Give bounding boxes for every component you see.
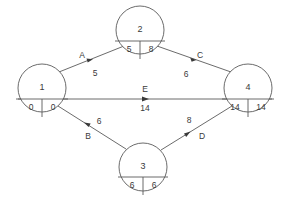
edge-b-duration: 6 <box>97 116 102 126</box>
edge-a[interactable]: A 5 <box>59 46 124 78</box>
edge-e-duration: 14 <box>140 103 150 113</box>
node-3-right-value: 6 <box>152 180 157 190</box>
edge-a-duration: 5 <box>93 68 98 78</box>
node-2[interactable]: 2 5 8 <box>115 6 165 59</box>
node-4-left-value: 14 <box>230 102 240 112</box>
node-1-id: 1 <box>39 82 44 92</box>
edge-e-arrowhead <box>142 97 149 102</box>
node-2-left-value: 5 <box>127 44 132 54</box>
edge-d[interactable]: D 8 <box>161 106 232 150</box>
node-3[interactable]: 3 6 6 <box>118 143 168 195</box>
node-3-id: 3 <box>140 161 145 171</box>
network-diagram-canvas: A 5 C 6 E 14 B 6 <box>0 0 283 199</box>
node-4-id: 4 <box>245 82 250 92</box>
node-group: 1 0 0 2 5 8 3 6 6 <box>16 6 274 195</box>
node-1-left-value: 0 <box>29 102 34 112</box>
node-4-right-value: 14 <box>256 102 266 112</box>
edge-b[interactable]: B 6 <box>58 106 126 149</box>
edge-c-label: C <box>197 50 203 60</box>
edge-c-duration: 6 <box>184 69 189 79</box>
node-3-left-value: 6 <box>130 180 135 190</box>
edge-a-line <box>59 46 124 72</box>
edge-e-label: E <box>142 84 148 94</box>
edge-b-line <box>58 106 126 149</box>
node-4[interactable]: 4 14 14 <box>222 64 274 117</box>
network-diagram: A 5 C 6 E 14 B 6 <box>0 0 283 199</box>
edge-d-duration: 8 <box>187 115 192 125</box>
edge-c-line <box>157 46 231 72</box>
edge-b-label: B <box>85 131 91 141</box>
edge-d-label: D <box>199 131 205 141</box>
node-1[interactable]: 1 0 0 <box>16 64 68 117</box>
edge-a-arrowhead <box>87 59 94 63</box>
node-2-id: 2 <box>137 24 142 34</box>
node-2-right-value: 8 <box>149 44 154 54</box>
node-1-right-value: 0 <box>51 102 56 112</box>
edge-d-arrowhead <box>184 132 191 138</box>
edge-a-label: A <box>79 50 85 60</box>
edge-d-line <box>161 106 232 150</box>
edge-c[interactable]: C 6 <box>157 46 231 79</box>
